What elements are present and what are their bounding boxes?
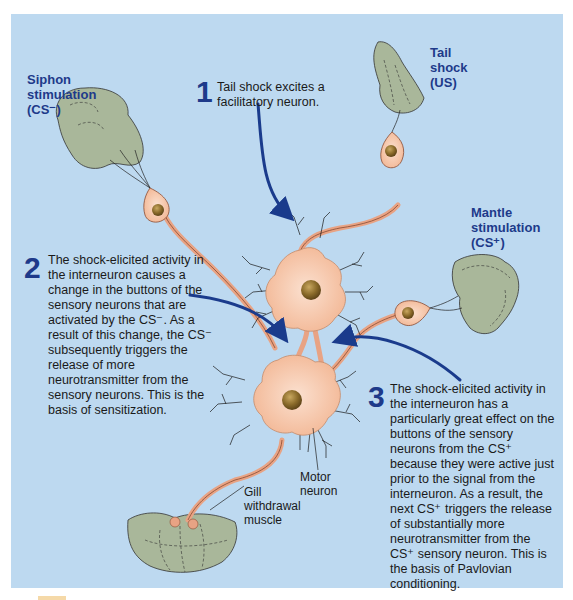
- text-line: neurons from the CS⁺: [390, 442, 554, 457]
- step-2-text: The shock-elicited activity in the inter…: [48, 253, 212, 418]
- text-line: the interneuron causes a: [48, 268, 212, 283]
- mantle-sensory-neuron: [395, 301, 430, 326]
- label-line: withdrawal: [244, 499, 301, 513]
- text-line: because they were active just: [390, 457, 554, 472]
- label-line: Gill: [244, 485, 301, 499]
- label-line: (CS⁺): [471, 235, 540, 250]
- text-line: The shock-elicited activity in: [390, 382, 554, 397]
- label-line: Siphon: [27, 72, 96, 87]
- step-3-text: The shock-elicited activity in the inter…: [390, 382, 554, 592]
- step-3-number: 3: [368, 383, 385, 411]
- text-line: the interneuron has a: [390, 397, 554, 412]
- step-1-number: 1: [196, 78, 213, 106]
- facilitatory-interneuron: [266, 248, 346, 332]
- text-line: buttons of the sensory: [390, 427, 554, 442]
- motor-neuron-label: Motor neuron: [300, 470, 337, 498]
- text-line: activated by the CS⁻. As a: [48, 313, 212, 328]
- mantle-tissue: [452, 255, 518, 334]
- siphon-stimulation-label: Siphon stimulation (CS⁻): [27, 72, 96, 117]
- gill-withdrawal-muscle-label: Gill withdrawal muscle: [244, 485, 301, 527]
- label-line: stimulation: [27, 87, 96, 102]
- text-line: release of more: [48, 358, 212, 373]
- tail-shock-label: Tail shock (US): [430, 45, 468, 90]
- label-line: (CS⁻): [27, 102, 96, 117]
- siphon-sensory-neuron: [144, 188, 169, 222]
- text-line: conditioning.: [390, 577, 554, 592]
- label-line: shock: [430, 60, 468, 75]
- gill-tissue: [128, 513, 237, 572]
- label-line: Tail: [430, 45, 468, 60]
- text-line: Tail shock excites a: [217, 80, 325, 95]
- label-line: Motor: [300, 470, 337, 484]
- tail-sensory-neuron: [381, 132, 404, 168]
- step-2-number: 2: [24, 254, 41, 282]
- text-line: interneuron. As a result, the: [390, 487, 554, 502]
- text-line: The shock-elicited activity in: [48, 253, 212, 268]
- text-line: result of this change, the CS⁻: [48, 328, 212, 343]
- label-line: Mantle: [471, 205, 540, 220]
- text-line: sensory neurons. This is the: [48, 388, 212, 403]
- text-line: of substantially more: [390, 517, 554, 532]
- motor-neuron: [254, 355, 341, 435]
- text-line: particularly great effect on the: [390, 412, 554, 427]
- text-line: neurotransmitter from the: [390, 532, 554, 547]
- text-line: neurotransmitter from the: [48, 373, 212, 388]
- tail-tissue: [374, 42, 424, 113]
- mantle-stimulation-label: Mantle stimulation (CS⁺): [471, 205, 540, 250]
- text-line: basis of sensitization.: [48, 403, 212, 418]
- text-line: CS⁺ sensory neuron. This is: [390, 547, 554, 562]
- label-line: (US): [430, 75, 468, 90]
- label-line: stimulation: [471, 220, 540, 235]
- label-line: neuron: [300, 484, 337, 498]
- text-line: subsequently triggers the: [48, 343, 212, 358]
- text-line: the basis of Pavlovian: [390, 562, 554, 577]
- label-line: muscle: [244, 513, 301, 527]
- text-line: next CS⁺ triggers the release: [390, 502, 554, 517]
- text-line: change in the buttons of the: [48, 283, 212, 298]
- text-line: prior to the signal from the: [390, 472, 554, 487]
- text-line: sensory neurons that are: [48, 298, 212, 313]
- text-line: facilitatory neuron.: [217, 95, 325, 110]
- step-1-text: Tail shock excites a facilitatory neuron…: [217, 80, 325, 110]
